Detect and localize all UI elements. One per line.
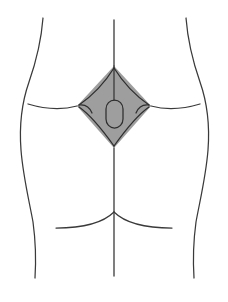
anatomical-figure <box>0 0 228 302</box>
figure-canvas <box>0 0 228 302</box>
